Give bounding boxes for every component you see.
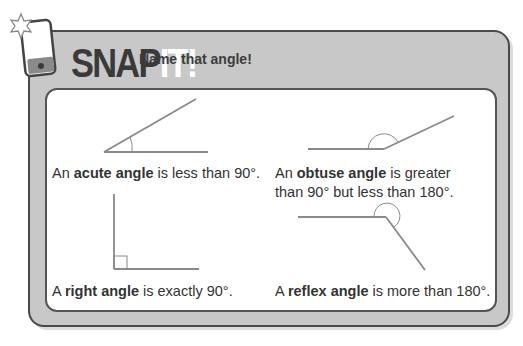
obtuse-angle-diagram (308, 116, 454, 149)
obtuse-angle-caption: An obtuse angle is greater than 90° but … (275, 164, 453, 202)
right-angle-caption: A right angle is exactly 90°. (52, 282, 233, 301)
reflex-angle-diagram (298, 203, 425, 270)
right-angle-diagram (114, 194, 199, 269)
acute-angle-diagram (104, 99, 208, 152)
reflex-angle-caption: A reflex angle is more than 180°. (275, 282, 490, 301)
acute-angle-caption: An acute angle is less than 90°. (52, 164, 260, 183)
